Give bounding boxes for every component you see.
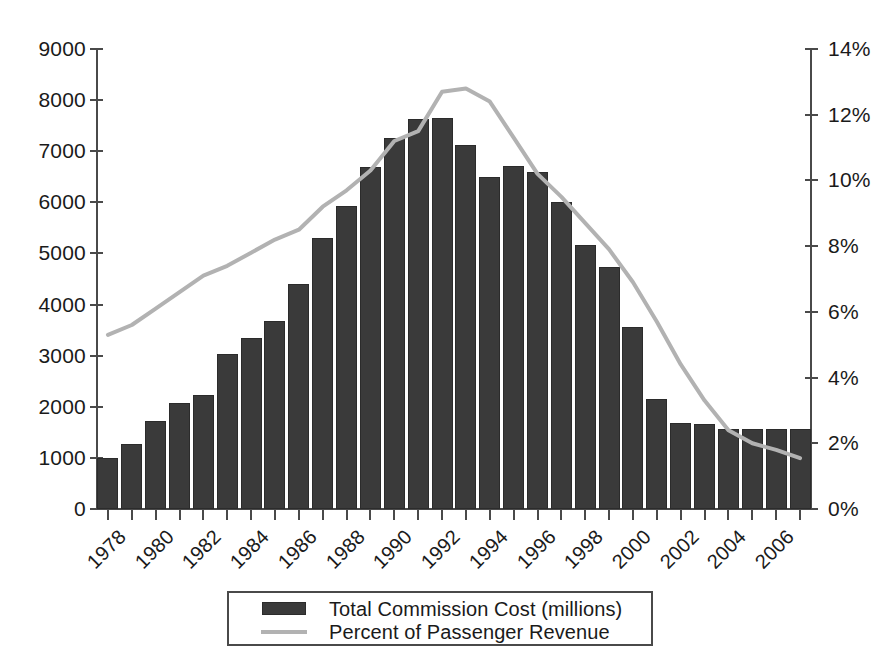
right-axis-tick	[805, 114, 818, 116]
left-axis-tick	[90, 99, 103, 101]
bar	[551, 202, 572, 509]
x-axis-tick	[537, 508, 539, 520]
bar	[408, 119, 429, 509]
x-axis-tick	[250, 508, 252, 520]
x-axis-tick-label: 1990	[370, 526, 416, 572]
x-axis-tick-label: 1998	[561, 526, 607, 572]
x-axis-tick-label: 1988	[322, 526, 368, 572]
x-axis-tick	[393, 508, 395, 520]
bar	[193, 395, 214, 509]
left-axis-tick	[90, 252, 103, 254]
x-axis-tick	[560, 508, 562, 520]
left-axis-line	[96, 49, 98, 510]
x-axis-tick-label: 1996	[513, 526, 559, 572]
x-axis-tick-label: 1980	[131, 526, 177, 572]
x-axis-tick	[107, 508, 109, 520]
bar	[503, 166, 524, 509]
x-axis-tick	[656, 508, 658, 520]
bar	[432, 118, 453, 510]
left-axis-tick	[90, 406, 103, 408]
left-axis-tick-label: 1000	[38, 447, 86, 468]
bar	[479, 177, 500, 509]
x-axis-tick	[346, 508, 348, 520]
left-axis-tick	[90, 201, 103, 203]
x-axis-tick	[727, 508, 729, 520]
x-axis-tick-label: 2000	[608, 526, 654, 572]
bar	[288, 284, 309, 509]
x-axis-tick	[226, 508, 228, 520]
right-axis-tick	[805, 377, 818, 379]
plot-area	[96, 49, 812, 509]
x-axis-tick	[131, 508, 133, 520]
right-axis-tick-label: 10%	[828, 169, 871, 190]
x-axis-tick-label: 1994	[465, 526, 511, 572]
bar	[766, 429, 787, 509]
x-axis-tick	[775, 508, 777, 520]
x-axis-tick-label: 1992	[417, 526, 463, 572]
left-axis-tick	[90, 304, 103, 306]
right-axis-tick	[805, 245, 818, 247]
x-axis-tick	[202, 508, 204, 520]
right-axis-tick-label: 2%	[828, 432, 859, 453]
bar	[527, 172, 548, 509]
right-axis-tick	[805, 48, 818, 50]
left-axis-tick	[90, 48, 103, 50]
x-axis-tick	[584, 508, 586, 520]
bar	[646, 399, 667, 509]
left-axis-tick-label: 2000	[38, 396, 86, 417]
legend-label-total-commission-cost: Total Commission Cost (millions)	[321, 598, 622, 620]
left-axis-tick	[90, 355, 103, 357]
x-axis-tick-label: 2006	[751, 526, 797, 572]
left-axis-tick-label: 6000	[38, 191, 86, 212]
left-axis-tick	[90, 150, 103, 152]
x-axis-tick-label: 1982	[179, 526, 225, 572]
chart-container: 0100020003000400050006000700080009000 0%…	[0, 0, 880, 661]
bar-swatch-icon	[247, 602, 321, 615]
left-axis-tick-label: 5000	[38, 242, 86, 263]
right-axis-tick-label: 8%	[828, 235, 859, 256]
bar	[694, 424, 715, 509]
x-axis-tick-label: 1984	[226, 526, 272, 572]
x-axis-tick	[298, 508, 300, 520]
right-axis-tick-label: 4%	[828, 367, 859, 388]
bar	[455, 145, 476, 509]
x-axis-tick	[322, 508, 324, 520]
bar	[790, 429, 811, 509]
x-axis-tick	[513, 508, 515, 520]
legend-label-percent-of-passenger-revenue: Percent of Passenger Revenue	[321, 621, 610, 643]
left-axis-tick-label: 8000	[38, 89, 86, 110]
bar	[575, 245, 596, 509]
right-axis-tick-label: 6%	[828, 301, 859, 322]
x-axis-tick	[274, 508, 276, 520]
x-axis-tick	[465, 508, 467, 520]
bar	[742, 429, 763, 509]
chart-legend: Total Commission Cost (millions) Percent…	[227, 591, 653, 646]
bar	[360, 167, 381, 509]
bar	[336, 206, 357, 509]
x-axis-tick	[704, 508, 706, 520]
left-axis-tick-label: 7000	[38, 140, 86, 161]
left-axis-tick-label: 4000	[38, 294, 86, 315]
left-axis-tick-label: 0	[74, 498, 86, 519]
right-axis-tick	[805, 179, 818, 181]
left-axis-tick-label: 3000	[38, 345, 86, 366]
bar	[384, 138, 405, 509]
legend-item-total-commission-cost: Total Commission Cost (millions)	[229, 597, 651, 620]
x-axis-tick-label: 2004	[704, 526, 750, 572]
bar	[97, 458, 118, 509]
right-axis-tick-label: 14%	[828, 38, 871, 59]
x-axis-tick	[680, 508, 682, 520]
line-swatch-icon	[247, 630, 321, 634]
x-axis-tick-label: 1978	[83, 526, 129, 572]
right-axis-tick-label: 0%	[828, 498, 859, 519]
bar	[312, 238, 333, 509]
x-axis-tick	[155, 508, 157, 520]
x-axis-tick	[632, 508, 634, 520]
x-axis-tick	[608, 508, 610, 520]
x-axis-tick	[751, 508, 753, 520]
x-axis-tick-label: 1986	[274, 526, 320, 572]
x-axis-tick	[489, 508, 491, 520]
right-axis-tick	[805, 311, 818, 313]
bar	[241, 338, 262, 509]
x-axis-tick	[799, 508, 801, 520]
